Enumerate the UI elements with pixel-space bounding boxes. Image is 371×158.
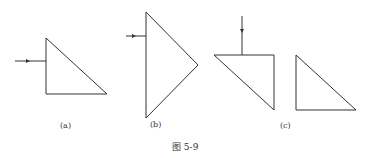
label-c: (c) (280, 121, 291, 130)
label-b: (b) (150, 120, 161, 129)
triangle-b (146, 12, 198, 118)
triangle-c-right (296, 55, 356, 110)
figure-5-9: (a) (b) (c) 图 5-9 (0, 0, 371, 158)
arrowhead-a-icon (26, 59, 30, 63)
triangle-a (46, 38, 107, 94)
figure-caption: 图 5-9 (172, 142, 199, 152)
triangle-c-left (214, 55, 274, 110)
arrowhead-c-icon (240, 29, 244, 33)
label-a: (a) (60, 121, 71, 130)
arrowhead-b-icon (132, 34, 136, 38)
